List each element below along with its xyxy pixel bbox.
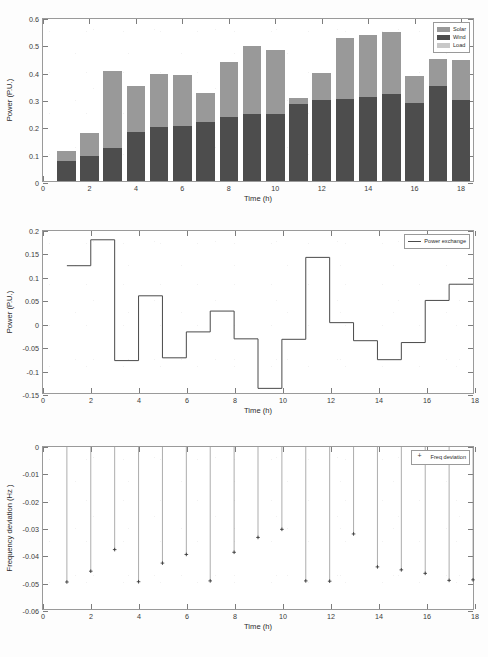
x-axis-tick-label: 16: [411, 184, 419, 193]
bar-segment-solar: [405, 76, 424, 103]
y-axis-tick-label: 0.1: [29, 273, 39, 282]
stem-marker: [65, 580, 69, 584]
y-axis-tick-label: 0.6: [29, 15, 39, 24]
y-axis-tick-label: -0.02: [23, 497, 39, 506]
bar-segment-solar: [57, 151, 76, 161]
step-chart-legend[interactable]: Power exchange: [404, 234, 470, 249]
stem-marker: [256, 536, 260, 540]
x-axis-tick-top: [43, 19, 44, 24]
bar-segment-solar: [150, 74, 169, 128]
x-axis-tick-label: 16: [423, 396, 431, 405]
y-axis-tick-label: 0.15: [25, 250, 39, 259]
x-axis-tick-top: [275, 19, 276, 24]
bar-chart-plot-area: 00.10.20.30.40.50.6 024681012141618 Sola…: [42, 18, 474, 182]
x-axis-tick-label: 14: [375, 396, 383, 405]
stem-marker: [423, 572, 427, 576]
bar-stack: [336, 38, 355, 181]
x-axis-tick-top: [182, 19, 183, 24]
bar-segment-wind: [452, 100, 471, 181]
x-axis-tick-label: 8: [233, 396, 237, 405]
y-axis-tick-label: -0.06: [23, 607, 39, 616]
x-axis-tick-label: 16: [423, 612, 431, 621]
bar-segment-solar: [196, 93, 215, 122]
bar-segment-wind: [220, 117, 239, 181]
x-axis-tick-label: 14: [375, 612, 383, 621]
x-axis-tick-label: 8: [227, 184, 231, 193]
bar-chart-axes: 00.10.20.30.40.50.6 024681012141618 Sola…: [0, 4, 488, 216]
x-axis-tick: [43, 176, 44, 181]
bar-segment-solar: [243, 46, 262, 115]
y-axis-tick-right: [468, 19, 473, 20]
y-axis-tick: [43, 156, 48, 157]
stem-marker: [161, 561, 165, 565]
stem-chart-x-axis-label: Time (h): [244, 622, 272, 631]
bar-chart-legend[interactable]: Solar Wind Load: [433, 22, 470, 53]
y-axis-tick-label: 0.2: [29, 124, 39, 133]
y-axis-tick-label: -0.03: [23, 525, 39, 534]
stem-marker: [113, 548, 117, 552]
y-axis-tick-label: 0.05: [25, 297, 39, 306]
x-axis-tick-top: [475, 447, 476, 452]
y-axis-tick-label: 0: [35, 179, 39, 188]
figure-page: 00.10.20.30.40.50.6 024681012141618 Sola…: [0, 0, 488, 657]
stem-marker: [471, 578, 475, 582]
bar-stack: [80, 133, 99, 181]
y-axis-tick-label: 0.1: [29, 151, 39, 160]
bar-stack: [452, 60, 471, 181]
y-axis-tick: [43, 128, 48, 129]
bar-chart-x-axis-label: Time (h): [244, 194, 272, 203]
y-axis-tick: [43, 101, 48, 102]
y-axis-tick-right: [468, 183, 473, 184]
bar-segment-wind: [336, 99, 355, 181]
stem-marker: [328, 579, 332, 583]
x-axis-tick-top: [229, 19, 230, 24]
stem-marker: [137, 580, 141, 584]
x-axis-tick-label: 2: [89, 396, 93, 405]
stem-marker: [232, 551, 236, 555]
legend-label-load: Load: [453, 42, 465, 49]
x-axis-tick-label: 18: [471, 612, 479, 621]
bar-segment-wind: [405, 103, 424, 181]
legend-item-wind: Wind: [437, 34, 466, 41]
legend-item-power-exchange: Power exchange: [408, 238, 466, 245]
stem-chart-stems: [43, 447, 473, 609]
bar-segment-solar: [220, 62, 239, 117]
power-exchange-step-line: [67, 240, 473, 389]
y-axis-tick-label: -0.15: [23, 391, 39, 400]
stem-chart-legend[interactable]: Freq deviation: [411, 450, 470, 465]
bar-segment-wind: [57, 161, 76, 182]
x-axis-tick-label: 6: [185, 396, 189, 405]
bar-chart-figure: 00.10.20.30.40.50.6 024681012141618 Sola…: [0, 4, 488, 216]
bar-stack: [405, 76, 424, 182]
y-axis-tick-label: 0: [35, 443, 39, 452]
x-axis-tick-top: [475, 231, 476, 236]
x-axis-tick-label: 8: [233, 612, 237, 621]
stem-marker: [280, 528, 284, 532]
step-chart-x-axis-label: Time (h): [244, 406, 272, 415]
bar-segment-solar: [312, 73, 331, 100]
x-axis-tick-label: 10: [271, 184, 279, 193]
bar-segment-wind: [289, 104, 308, 181]
bar-segment-wind: [150, 127, 169, 181]
bar-stack: [103, 71, 122, 181]
x-axis-tick-label: 6: [185, 612, 189, 621]
bar-stack: [127, 86, 146, 181]
x-axis-tick-label: 10: [279, 612, 287, 621]
x-axis-tick-top: [415, 19, 416, 24]
bar-segment-wind: [80, 156, 99, 181]
x-axis-tick-label: 12: [327, 612, 335, 621]
y-axis-tick-label: -0.04: [23, 552, 39, 561]
stem-marker: [400, 568, 404, 572]
y-axis-tick: [43, 74, 48, 75]
bar-segment-solar: [127, 86, 146, 131]
stem-marker: [185, 553, 189, 557]
bar-segment-wind: [103, 148, 122, 181]
x-axis-tick-label: 12: [318, 184, 326, 193]
x-axis-tick-label: 4: [137, 396, 141, 405]
bar-segment-wind: [312, 100, 331, 181]
bar-stack: [382, 32, 401, 181]
x-axis-tick-top: [89, 19, 90, 24]
stem-marker: [447, 579, 451, 583]
bar-stack: [220, 62, 239, 181]
x-axis-tick-label: 0: [41, 184, 45, 193]
